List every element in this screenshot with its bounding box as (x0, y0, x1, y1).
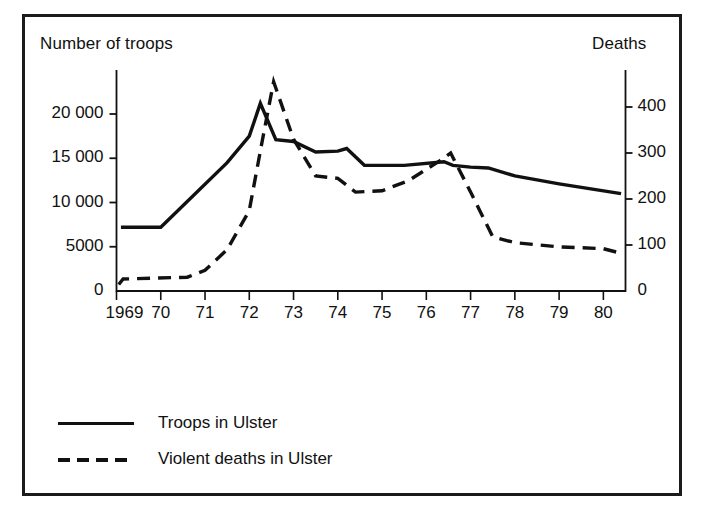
series-line-troops (121, 103, 621, 227)
right-tick-label-0: 0 (638, 280, 698, 300)
right-tick-label-3: 300 (638, 142, 698, 162)
right-tick-label-4: 400 (638, 96, 698, 116)
x-tick-label-1: 70 (139, 303, 183, 323)
x-tick-label-7: 76 (404, 303, 448, 323)
legend-label-deaths: Violent deaths in Ulster (158, 449, 333, 469)
legend-key-dashed-line-icon (58, 452, 134, 466)
x-tick-label-8: 77 (449, 303, 493, 323)
left-tick-label-0: 0 (12, 280, 104, 300)
x-tick-label-4: 73 (272, 303, 316, 323)
legend-item-troops: Troops in Ulster (58, 405, 478, 441)
left-tick-label-1: 5000 (12, 236, 104, 256)
x-tick-label-10: 79 (537, 303, 581, 323)
x-tick-label-5: 74 (316, 303, 360, 323)
axis-ticks (110, 107, 633, 300)
left-tick-label-3: 15 000 (12, 147, 104, 167)
series-lines (119, 82, 621, 285)
legend-key-solid-line-icon (58, 416, 134, 430)
chart-legend: Troops in Ulster Violent deaths in Ulste… (58, 405, 478, 477)
left-tick-label-2: 10 000 (12, 192, 104, 212)
chart-figure: Number of troops Deaths 0500010 00015 00… (0, 0, 706, 516)
x-tick-label-9: 78 (493, 303, 537, 323)
right-tick-label-1: 100 (638, 234, 698, 254)
legend-label-troops: Troops in Ulster (158, 413, 277, 433)
x-tick-label-6: 75 (360, 303, 404, 323)
x-tick-label-11: 80 (581, 303, 625, 323)
right-tick-label-2: 200 (638, 188, 698, 208)
x-tick-label-3: 72 (227, 303, 271, 323)
legend-item-deaths: Violent deaths in Ulster (58, 441, 478, 477)
x-tick-label-2: 71 (183, 303, 227, 323)
left-tick-label-4: 20 000 (12, 103, 104, 123)
